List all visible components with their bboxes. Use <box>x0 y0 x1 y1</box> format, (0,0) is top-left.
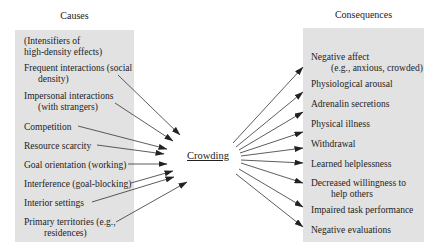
arrow-illness <box>240 132 303 153</box>
arrow-interference <box>131 171 173 183</box>
arrow-willingness <box>241 163 303 183</box>
arrow-frequent <box>118 75 180 135</box>
connector-arrows <box>0 0 441 250</box>
arrow-arousal <box>236 92 303 147</box>
arrow-impersonal <box>115 103 173 141</box>
arrow-resource <box>97 145 164 154</box>
arrow-evaluations <box>236 174 303 227</box>
arrow-helplessness <box>241 160 303 163</box>
arrow-negative-affect <box>233 67 303 143</box>
arrow-primary <box>116 182 187 222</box>
arrow-interior <box>92 177 174 202</box>
arrow-adrenalin <box>239 112 303 150</box>
arrow-competition <box>78 126 167 149</box>
